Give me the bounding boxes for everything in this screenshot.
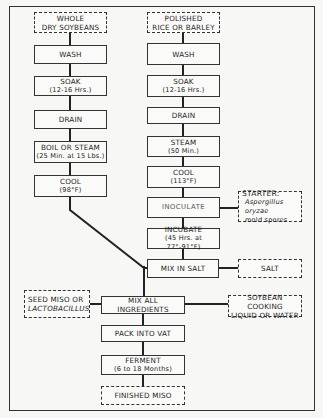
step-soy-cool: COOL (98°F): [34, 175, 107, 197]
step-detail: (12-16 Hrs.): [49, 86, 91, 95]
step-detail: (113°F): [170, 177, 196, 186]
step-detail: (12-16 Hrs.): [162, 86, 204, 95]
step-label: WASH: [59, 50, 81, 59]
start-line2: DRY SOYBEANS: [42, 23, 100, 32]
step-label: SOAK: [60, 77, 81, 86]
input-soybean-liquid: SOYBEAN COOKING LIQUID OR WATER: [228, 295, 302, 317]
seed-line1: SEED MISO OR: [28, 295, 83, 304]
step-label: WASH: [172, 50, 194, 59]
step-soy-drain: DRAIN: [34, 110, 107, 129]
step-label: INOCULATE: [162, 203, 205, 212]
step-grain-wash: WASH: [147, 43, 220, 65]
step-pack-into-vat: PACK INTO VAT: [101, 325, 185, 342]
step-grain-drain: DRAIN: [147, 107, 220, 124]
start-polished-rice-barley: POLISHED RICE OR BARLEY: [147, 12, 220, 33]
input-salt: SALT: [238, 259, 302, 278]
step-label: INCUBATE: [165, 225, 203, 234]
salt-label: SALT: [261, 264, 279, 273]
seed-line2: LACTOBACILLUS: [28, 304, 89, 313]
step-label: COOL: [173, 168, 194, 177]
step-label: BOIL OR STEAM: [41, 143, 100, 152]
end-label: FINISHED MISO: [114, 391, 171, 400]
end-finished-miso: FINISHED MISO: [101, 386, 185, 405]
step-inoculate: INOCULATE: [147, 197, 220, 218]
step-label: DRAIN: [172, 111, 196, 120]
start-whole-dry-soybeans: WHOLE DRY SOYBEANS: [34, 12, 107, 33]
step-soy-soak: SOAK (12-16 Hrs.): [34, 76, 107, 96]
step-mix-in-salt: MIX IN SALT: [147, 259, 219, 278]
step-label: MIX IN SALT: [161, 264, 206, 273]
step-detail: (98°F): [60, 186, 82, 195]
step-soy-boil: BOIL OR STEAM (25 Min. at 15 Lbs.): [34, 141, 107, 163]
step-ferment: FERMENT (6 to 18 Months): [101, 355, 185, 375]
starter-title: STARTER:: [242, 189, 279, 198]
start-line1: WHOLE: [57, 14, 85, 23]
step-label: MIX ALL INGREDIENTS: [102, 296, 184, 314]
step-detail: (25 Min. at 15 Lbs.): [36, 152, 104, 161]
step-label: FERMENT: [125, 356, 161, 365]
starter-organism: Aspergillus oryzae: [242, 198, 301, 216]
start-line1: POLISHED: [165, 14, 203, 23]
step-soy-wash: WASH: [34, 45, 107, 64]
step-label: PACK INTO VAT: [115, 329, 171, 338]
step-detail: (45 Hrs. at 77°-91°F): [148, 234, 219, 252]
step-label: COOL: [60, 177, 81, 186]
step-detail: (50 Min.): [168, 147, 199, 156]
input-seed-miso: SEED MISO OR LACTOBACILLUS: [24, 290, 90, 318]
liquid-line1: SOYBEAN COOKING: [229, 293, 301, 311]
step-label: DRAIN: [59, 115, 83, 124]
step-label: SOAK: [173, 77, 194, 86]
step-label: STEAM: [171, 138, 197, 147]
step-mix-all-ingredients: MIX ALL INGREDIENTS: [101, 296, 185, 314]
input-starter: STARTER: Aspergillus oryzae mold spores: [238, 191, 302, 222]
start-line2: RICE OR BARLEY: [152, 23, 214, 32]
step-detail: (6 to 18 Months): [114, 365, 172, 374]
starter-desc: mold spores: [242, 216, 287, 225]
step-grain-soak: SOAK (12-16 Hrs.): [147, 75, 220, 97]
step-incubate: INCUBATE (45 Hrs. at 77°-91°F): [147, 228, 220, 249]
step-grain-steam: STEAM (50 Min.): [147, 136, 220, 157]
liquid-line2: LIQUID OR WATER: [231, 311, 299, 320]
step-grain-cool: COOL (113°F): [147, 166, 220, 188]
